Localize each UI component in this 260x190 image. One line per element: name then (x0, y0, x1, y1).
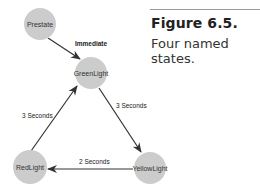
edge-label-green-yellow: 3 Seconds (116, 102, 147, 109)
svg-text:GreenLight: GreenLight (74, 70, 109, 78)
node-redlight: RedLight (13, 150, 47, 184)
svg-text:RedLight: RedLight (16, 164, 44, 172)
edge-greenlight-yellowlight (99, 88, 141, 152)
svg-text:Prestate: Prestate (27, 21, 53, 28)
node-prestate: Prestate (24, 8, 56, 40)
state-diagram: Immediate 3 Seconds 2 Seconds 3 Seconds … (0, 0, 260, 190)
node-greenlight: GreenLight (74, 57, 109, 89)
svg-text:YellowLight: YellowLight (132, 165, 167, 173)
edge-label-red-green: 3 Seconds (22, 112, 53, 119)
edge-label-yellow-red: 2 Seconds (79, 158, 110, 165)
node-yellowlight: YellowLight (132, 152, 167, 184)
edge-label-immediate: Immediate (75, 40, 108, 47)
